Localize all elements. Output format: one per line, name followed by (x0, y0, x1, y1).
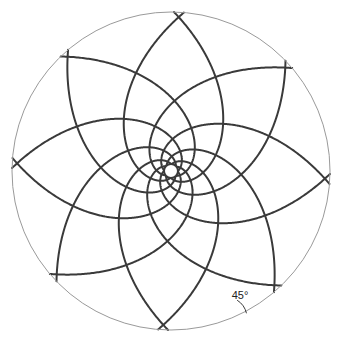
center-disc (164, 164, 178, 178)
angle-label: 45° (232, 289, 249, 301)
spiral-diagram-svg: 45° (0, 0, 341, 341)
figure-root: 45° (0, 0, 341, 341)
